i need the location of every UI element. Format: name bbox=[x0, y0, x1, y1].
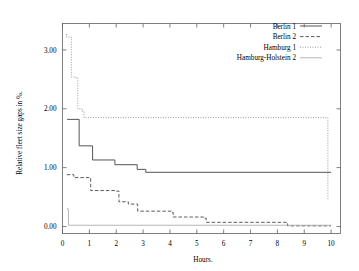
data-series-line bbox=[67, 119, 331, 172]
x-tick-label: 9 bbox=[302, 240, 306, 248]
data-series-line bbox=[67, 209, 331, 225]
legend-label: Berlin 1 bbox=[273, 23, 297, 31]
x-tick-label: 1 bbox=[88, 240, 92, 248]
x-tick-label: 0 bbox=[61, 240, 65, 248]
y-tick-label: 0.00 bbox=[44, 223, 57, 231]
legend-label: Hamburg 1 bbox=[264, 44, 297, 52]
x-tick-label: 7 bbox=[249, 240, 253, 248]
legend-label: Berlin 2 bbox=[273, 33, 297, 41]
x-tick-label: 3 bbox=[141, 240, 145, 248]
data-series-line bbox=[67, 175, 331, 226]
chart-figure: 012345678910 0.001.002.003.00 Berlin 1Be… bbox=[0, 0, 359, 271]
chart-canvas: 012345678910 0.001.002.003.00 Berlin 1Be… bbox=[0, 0, 359, 271]
x-tick-label: 6 bbox=[222, 240, 226, 248]
y-tick-label: 1.00 bbox=[44, 164, 57, 172]
x-tick-label: 10 bbox=[328, 240, 336, 248]
plot-frame bbox=[63, 24, 341, 234]
x-tick-label: 4 bbox=[168, 240, 172, 248]
x-tick-label: 8 bbox=[276, 240, 280, 248]
y-tick-label: 2.00 bbox=[44, 105, 57, 113]
chart-legend: Berlin 1Berlin 2Hamburg 1Hamburg-Holstei… bbox=[237, 23, 322, 63]
y-tick-label: 3.00 bbox=[44, 47, 57, 55]
x-axis-title: Hours. bbox=[193, 256, 213, 264]
legend-label: Hamburg-Holstein 2 bbox=[237, 54, 297, 62]
x-tick-label: 5 bbox=[195, 240, 199, 248]
y-axis-title: Relative fleet size gaps in %. bbox=[16, 91, 24, 175]
y-axis-ticks: 0.001.002.003.00 bbox=[44, 47, 341, 231]
x-tick-label: 2 bbox=[114, 240, 118, 248]
data-series-group bbox=[67, 34, 332, 226]
